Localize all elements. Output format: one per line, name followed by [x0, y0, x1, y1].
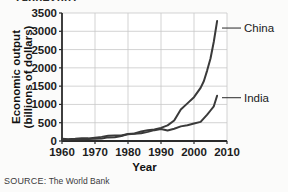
source-value: The World Bank	[49, 176, 110, 186]
line-chart: 0500100015002000250030003500196019701980…	[0, 0, 288, 192]
y-axis-title-line1: Economic output	[10, 30, 22, 124]
y-tick-label: 2000	[31, 62, 57, 74]
series-label-china: China	[244, 22, 275, 34]
y-tick-label: 2500	[31, 44, 57, 56]
y-tick-label: 3500	[31, 7, 57, 19]
source-note: SOURCE: The World Bank	[4, 176, 109, 186]
x-tick-label: 2010	[214, 146, 240, 158]
y-tick-label: 1500	[31, 80, 57, 92]
plot-background	[62, 13, 227, 141]
x-tick-label: 1980	[115, 146, 141, 158]
y-tick-label: 500	[38, 117, 57, 129]
y-tick-label: 1000	[31, 98, 57, 110]
y-tick-label: 3000	[31, 25, 57, 37]
economic-output-figure: 1960–2007 050010001500200025003000350019…	[0, 0, 288, 192]
x-tick-label: 1970	[82, 146, 108, 158]
x-axis-title: Year	[132, 161, 157, 173]
source-label: SOURCE:	[4, 176, 46, 186]
x-tick-label: 2000	[181, 146, 207, 158]
x-tick-label: 1960	[49, 146, 75, 158]
y-axis-title-line2: (billions of dollars)	[22, 25, 34, 128]
x-tick-label: 1990	[148, 146, 174, 158]
series-label-india: India	[244, 92, 270, 104]
